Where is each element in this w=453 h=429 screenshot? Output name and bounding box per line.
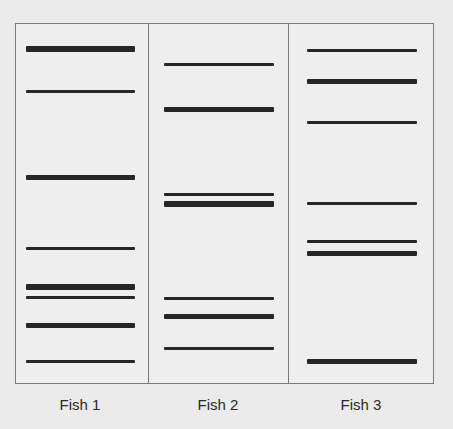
band-lane-2-2 (164, 107, 274, 112)
band-lane-1-7 (26, 323, 135, 328)
band-lane-2-7 (164, 347, 274, 350)
lane-label-fish-2: Fish 2 (158, 396, 278, 413)
band-lane-1-5 (26, 284, 135, 290)
band-lane-3-7 (307, 359, 417, 364)
band-lane-2-3 (164, 193, 274, 196)
lane-divider-2 (288, 24, 289, 383)
band-lane-3-2 (307, 79, 417, 84)
band-lane-3-4 (307, 202, 417, 205)
band-lane-2-6 (164, 314, 274, 319)
band-lane-3-6 (307, 251, 417, 256)
band-lane-1-4 (26, 247, 135, 250)
band-lane-1-6 (26, 296, 135, 299)
band-lane-3-1 (307, 49, 417, 52)
band-lane-2-5 (164, 297, 274, 300)
lane-label-fish-1: Fish 1 (20, 396, 140, 413)
band-lane-2-4 (164, 201, 274, 207)
band-lane-3-5 (307, 240, 417, 243)
band-lane-1-1 (26, 46, 135, 52)
band-lane-1-2 (26, 90, 135, 93)
lane-divider-1 (148, 24, 149, 383)
band-lane-1-3 (26, 175, 135, 180)
band-lane-1-8 (26, 360, 135, 363)
lane-label-fish-3: Fish 3 (301, 396, 421, 413)
band-lane-2-1 (164, 63, 274, 66)
band-lane-3-3 (307, 121, 417, 124)
